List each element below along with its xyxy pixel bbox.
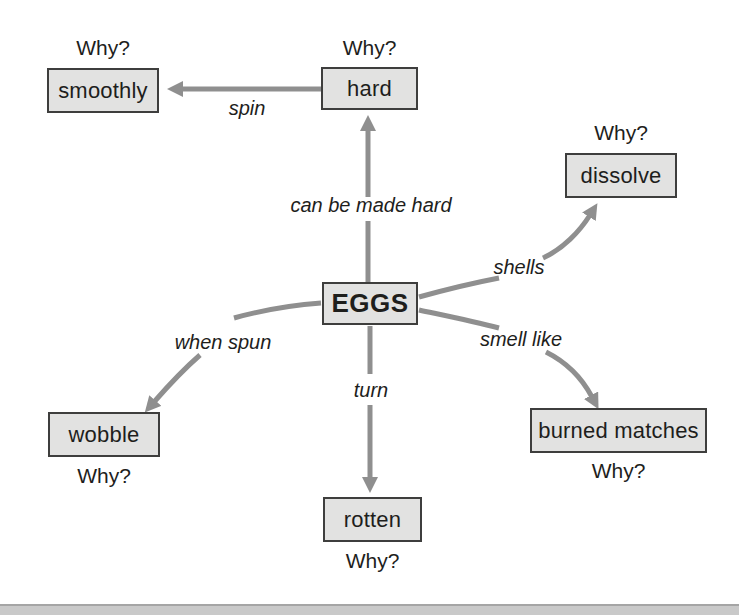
edge-label-turn: turn [321, 379, 421, 402]
arrow-smell-like-head [546, 352, 592, 397]
node-wobble: wobble [48, 412, 160, 457]
edge-label-can-be-made-hard: can be made hard [271, 194, 471, 217]
concept-map-diagram: Why? Why? Why? Why? Why? Why? smoothly h… [0, 0, 739, 615]
why-label-dissolve: Why? [565, 121, 677, 145]
arrow-shells-head [543, 215, 590, 258]
why-label-burned-matches: Why? [530, 459, 707, 483]
node-burned-matches: burned matches [530, 408, 707, 453]
edge-label-spin: spin [197, 97, 297, 120]
node-smoothly: smoothly [47, 68, 159, 113]
arrow-when-spun-tail [234, 303, 321, 318]
why-label-wobble: Why? [48, 464, 160, 488]
arrow-smell-like-tail [419, 310, 499, 328]
why-label-hard: Why? [321, 36, 418, 60]
edge-label-smell-like: smell like [471, 328, 571, 351]
node-dissolve: dissolve [565, 153, 677, 198]
arrow-when-spun-head [154, 355, 200, 402]
why-label-rotten: Why? [323, 549, 422, 573]
page-bottom-edge [0, 604, 739, 615]
edge-label-when-spun: when spun [163, 331, 283, 354]
why-label-smoothly: Why? [47, 36, 159, 60]
arrow-shells-tail [419, 278, 499, 297]
node-eggs: EGGS [322, 282, 418, 325]
edge-label-shells: shells [469, 256, 569, 279]
node-rotten: rotten [323, 497, 422, 542]
node-hard: hard [321, 67, 418, 110]
